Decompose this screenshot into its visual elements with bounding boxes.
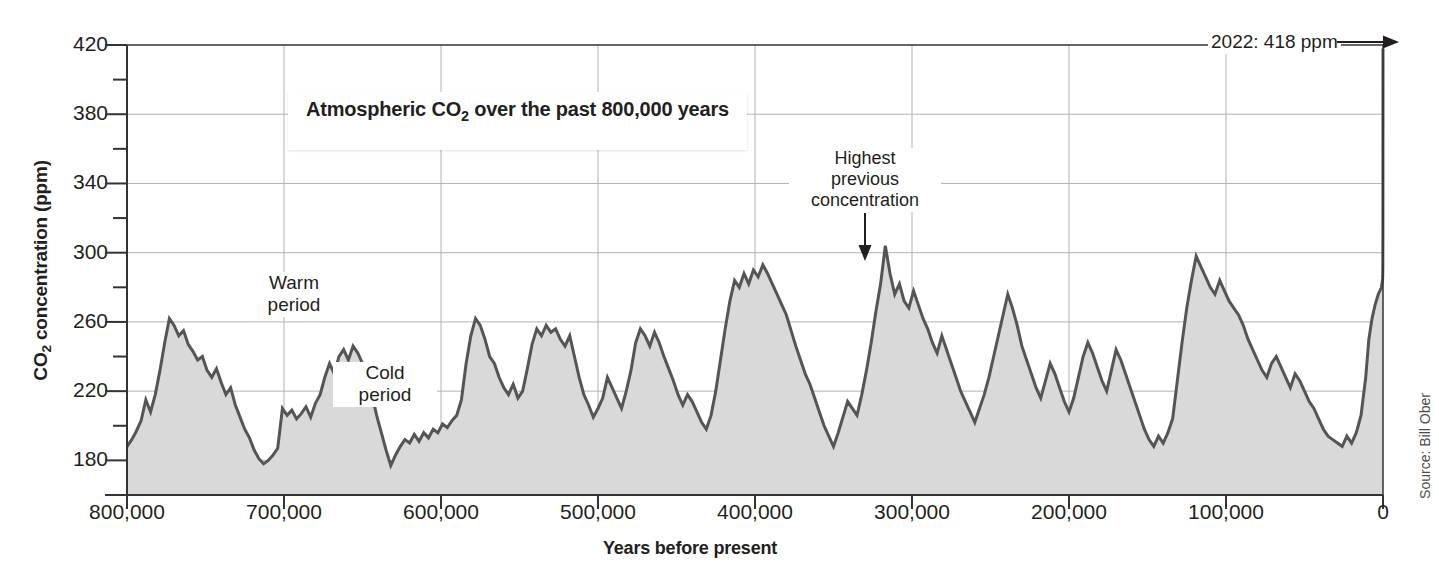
arrow-down-icon [855, 213, 875, 261]
x-tick-label: 800,000 [89, 500, 165, 524]
annotation-highest-line3: concentration [789, 190, 941, 211]
annotation-cold-line2: period [333, 384, 437, 406]
x-axis-title: Years before present [560, 538, 820, 559]
annotation-cold-line1: Cold [333, 362, 437, 384]
annotation-present-day: 2022: 418 ppm [1208, 30, 1341, 54]
chart-title-subscript: 2 [461, 108, 469, 124]
chart-title-post: over the past 800,000 years [469, 98, 729, 120]
chart-title-pre: Atmospheric CO [306, 98, 461, 120]
arrow-right-icon [1337, 33, 1399, 51]
source-note: Source: Bill Ober [1417, 351, 1433, 541]
annotation-highest-line2: previous [789, 169, 941, 190]
x-tick-label: 300,000 [874, 500, 950, 524]
annotation-warm-period: Warm period [234, 272, 354, 317]
x-tick-label: 400,000 [717, 500, 793, 524]
annotation-cold-period: Cold period [333, 362, 437, 407]
plot-canvas [0, 0, 1439, 579]
annotation-warm-line2: period [234, 294, 354, 316]
x-tick-label: 200,000 [1031, 500, 1107, 524]
x-tick-label: 700,000 [246, 500, 322, 524]
x-tick-label: 500,000 [560, 500, 636, 524]
x-tick-label: 100,000 [1188, 500, 1264, 524]
x-tick-label: 0 [1377, 500, 1389, 524]
chart-figure: CO2 concentration (ppm) 1802202603003403… [0, 0, 1439, 579]
chart-title: Atmospheric CO2 over the past 800,000 ye… [288, 92, 747, 150]
x-tick-label: 600,000 [403, 500, 479, 524]
annotation-warm-line1: Warm [234, 272, 354, 294]
annotation-highest-line1: Highest [789, 148, 941, 169]
annotation-highest-previous: Highest previous concentration [789, 148, 941, 212]
